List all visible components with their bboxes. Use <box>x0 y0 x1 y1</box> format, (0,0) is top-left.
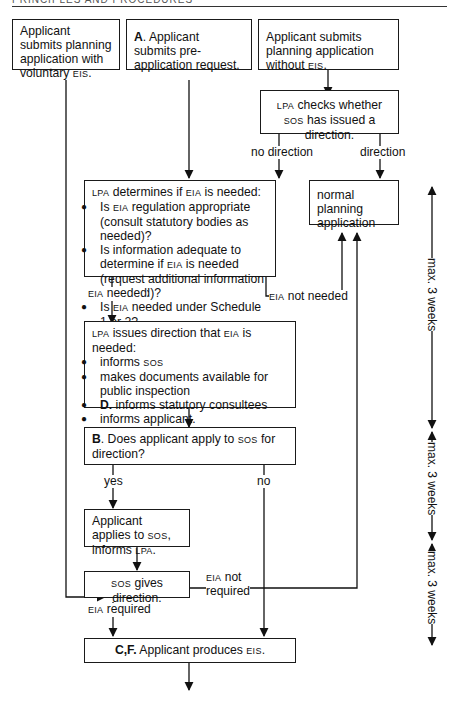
edge-label-direction: direction <box>360 146 405 159</box>
box-lpa-issues: LPA issues direction that EIA is needed:… <box>84 321 296 408</box>
edge-label-eia-not-needed: EIA not needed <box>269 290 348 304</box>
box-lpa-determines: LPA determines if EIA is needed: Is EIA … <box>84 180 276 277</box>
list-item: makes documents available for public ins… <box>78 370 288 398</box>
box-normal-planning: normal planning application <box>309 180 399 225</box>
edge-label-eia-needed: EIA needed <box>88 287 147 301</box>
box-applicant-applies: Applicant applies to SOS, informs LPA. <box>84 509 190 547</box>
box-lpa-checks: LPA checks whether SOS has issued a dire… <box>260 90 399 134</box>
box-sos-gives: SOS gives direction. <box>84 571 190 598</box>
edge-label-yes: yes <box>104 475 123 488</box>
timeline-label-2: max. 3 weeks <box>425 442 439 515</box>
list-item: Is EIA regulation appropriate (consult s… <box>78 200 268 243</box>
determination-questions: Is EIA regulation appropriate (consult s… <box>78 200 268 329</box>
edge-label-eia-required: EIA required <box>88 603 151 617</box>
box-produces-eis: C,F. Applicant produces EIS. <box>84 638 296 663</box>
edge-label-no: no <box>257 475 270 488</box>
edge-label-no-direction: no direction <box>251 146 313 159</box>
box-voluntary-eis: Applicant submits planning application w… <box>12 19 120 70</box>
list-item: D. informs statutory consultees <box>78 398 288 412</box>
list-item: informs SOS <box>78 355 288 370</box>
box-without-eis: Applicant submits planning application w… <box>258 19 399 70</box>
timeline-label-1: max. 3 weeks <box>425 258 439 331</box>
box-pre-application: A. Applicant submits pre-application req… <box>126 19 252 70</box>
list-item: informs applicant. <box>78 412 288 426</box>
box-apply-sos: B. Does applicant apply to SOS for direc… <box>84 427 296 465</box>
direction-actions: informs SOS makes documents available fo… <box>78 355 288 426</box>
timeline-label-3: max. 3 weeks <box>425 551 439 624</box>
edge-label-eia-not-required: EIA notrequired <box>206 571 250 598</box>
